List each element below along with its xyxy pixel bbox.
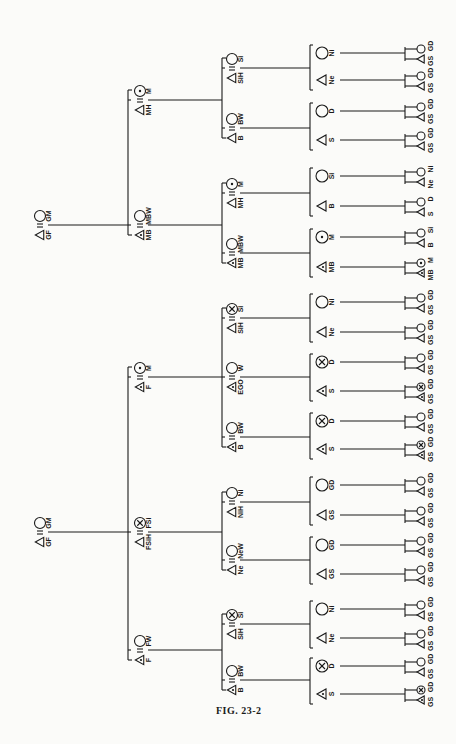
female-circle-icon <box>417 354 425 362</box>
grandchild-pair: GDGS <box>417 626 434 651</box>
male-triangle-icon <box>317 262 326 272</box>
male-triangle-icon <box>35 230 43 239</box>
dot-mark-icon <box>139 367 141 369</box>
grandchild-male-label: GS <box>427 669 434 679</box>
dot-mark-icon <box>232 262 234 264</box>
grandchild-male-label: GS <box>427 365 434 375</box>
male-label: SiH <box>237 72 244 84</box>
male-label: F <box>145 384 152 389</box>
grandchild-female-label: GD <box>427 597 434 608</box>
male-triangle-icon <box>35 537 43 546</box>
female-circle-icon <box>417 324 425 332</box>
grandchild-female-label: GD <box>427 654 434 665</box>
ego-generation-couple: WEGO <box>227 363 244 395</box>
grandchild-female-label: GD <box>427 437 434 448</box>
male-triangle-icon <box>417 113 424 121</box>
male-triangle-icon <box>317 201 326 211</box>
female-circle-icon <box>417 601 425 609</box>
child-label: Ne <box>328 327 335 336</box>
male-triangle-icon <box>417 451 424 459</box>
male-triangle-icon <box>317 135 326 145</box>
child-generation-individual: MB <box>317 262 335 273</box>
female-label: BW <box>237 113 244 125</box>
dot-mark-icon <box>232 446 234 448</box>
female-label: GM <box>45 517 52 528</box>
grandchild-male-label: GS <box>427 335 434 345</box>
grandchild-pair: GDGS <box>417 437 434 462</box>
child-label: D <box>328 418 335 423</box>
grandchild-pair: GDGS <box>417 350 434 375</box>
female-circle-icon <box>417 630 425 638</box>
child-label: GS <box>328 569 335 579</box>
dot-mark-icon <box>322 266 324 268</box>
child-label: D <box>328 359 335 364</box>
male-triangle-icon <box>417 696 424 704</box>
male-triangle-icon <box>135 105 143 114</box>
dot-mark-icon <box>420 262 422 264</box>
ego-generation-couple: SiSiH <box>227 610 244 640</box>
male-label: MB <box>145 230 152 241</box>
female-label: Ni <box>237 489 244 496</box>
male-triangle-icon <box>417 364 424 372</box>
grandchild-female-label: GD <box>427 128 434 139</box>
child-label: GD <box>328 480 335 491</box>
grandchild-male-label: GS <box>427 548 434 558</box>
male-label: SiH <box>237 322 244 334</box>
male-triangle-icon <box>317 386 326 396</box>
male-triangle-icon <box>135 537 143 546</box>
male-label: SiH <box>237 628 244 640</box>
dot-mark-icon <box>421 396 423 398</box>
male-triangle-icon <box>417 178 424 186</box>
grandchild-male-label: Ne <box>427 179 434 188</box>
dot-mark-icon <box>322 448 324 450</box>
male-label: B <box>237 444 244 449</box>
male-triangle-icon <box>227 442 235 451</box>
grandchild-female-label: GD <box>427 379 434 390</box>
male-triangle-icon <box>317 510 326 520</box>
ego-generation-couple: NeWNe <box>227 543 244 575</box>
grandchild-pair: GDGS <box>417 128 434 153</box>
grandchild-pair: GDGS <box>417 533 434 558</box>
dot-mark-icon <box>232 689 234 691</box>
ego-generation-couple: NiNiH <box>227 488 244 519</box>
child-generation-individual: Ne <box>317 327 335 337</box>
male-triangle-icon <box>417 517 424 525</box>
child-generation-individual: B <box>317 201 335 211</box>
child-generation-individual: S <box>317 689 335 699</box>
child-label: Ne <box>328 633 335 642</box>
male-label: GF <box>45 536 52 546</box>
dot-mark-icon <box>139 90 141 92</box>
male-triangle-icon <box>317 444 326 454</box>
grandchild-female-label: GD <box>427 68 434 79</box>
male-triangle-icon <box>227 382 235 391</box>
child-label: GS <box>328 510 335 520</box>
grandchild-female-label: GD <box>427 533 434 544</box>
grandchild-female-label: GD <box>427 503 434 514</box>
grandchild-pair: GDGS <box>417 503 434 528</box>
male-label: EGO <box>237 379 244 395</box>
grandchild-male-label: GS <box>427 305 434 315</box>
dot-mark-icon <box>421 454 423 456</box>
grandchild-pair: NiNe <box>417 165 434 188</box>
grandchild-male-label: GS <box>427 394 434 404</box>
grandchild-pair: DS <box>417 196 434 216</box>
female-label: NeW <box>237 543 244 559</box>
female-label: Si <box>237 56 244 63</box>
grandchild-female-label: Ni <box>427 165 434 172</box>
child-label: D <box>328 663 335 668</box>
female-circle-icon <box>316 296 328 308</box>
female-circle-icon <box>316 47 328 59</box>
grandchild-female-label: D <box>427 196 434 201</box>
female-circle-icon <box>417 103 425 111</box>
grandchild-pair: GDGS <box>417 682 434 707</box>
male-triangle-icon <box>417 55 424 63</box>
child-generation-individual: GD <box>316 479 335 491</box>
male-label: MB <box>237 258 244 269</box>
female-label: MBW <box>145 207 152 225</box>
child-generation-individual: Ne <box>317 75 335 85</box>
male-triangle-icon <box>135 382 143 391</box>
female-label: M <box>145 88 152 94</box>
male-triangle-icon <box>417 487 424 495</box>
child-label: S <box>328 446 335 451</box>
child-label: MB <box>328 262 335 273</box>
